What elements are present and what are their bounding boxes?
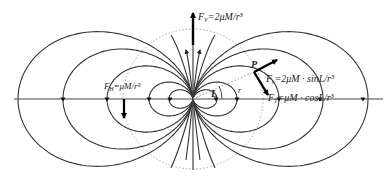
label-ft: FT=μM · cosL/r³ [267,92,335,104]
label-latitude: L [210,88,217,99]
latitude-arc [219,86,222,99]
label-fv: FV=2μM/r³ [197,11,244,23]
label-radius: r [238,86,242,95]
label-point-p: P [251,59,258,70]
label-fh: FH=μM/r³ [103,81,141,92]
dipole-field-diagram: FV=2μM/r³ FH=μM/r³ P Fr=2μM · sinL/r³ FT… [0,0,387,182]
fr-arrow [254,60,277,72]
label-fr: Fr=2μM · sinL/r³ [265,73,335,85]
